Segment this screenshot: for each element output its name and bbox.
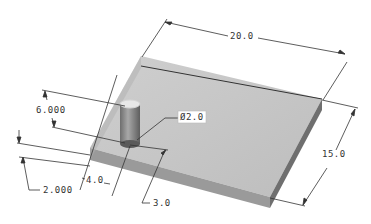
dim-thickness-label[interactable]: 2.000 <box>43 185 73 195</box>
pin-top <box>120 100 140 108</box>
cad-viewport: 20.0 15.0 Ø2.0 6.000 2.000 4.0 3.0 <box>0 0 371 224</box>
dim-diameter-label[interactable]: Ø2.0 <box>180 112 204 122</box>
pin-body <box>120 104 140 144</box>
dim-pin-height-label[interactable]: 6.000 <box>36 105 66 115</box>
dim-length-label[interactable]: 20.0 <box>230 31 254 41</box>
dim-offset-x-label[interactable]: 4.0 <box>86 175 104 185</box>
dim-offset-y-label[interactable]: 3.0 <box>153 198 171 208</box>
dim-width-label[interactable]: 15.0 <box>322 149 346 159</box>
cylinder-pin[interactable] <box>120 100 140 148</box>
